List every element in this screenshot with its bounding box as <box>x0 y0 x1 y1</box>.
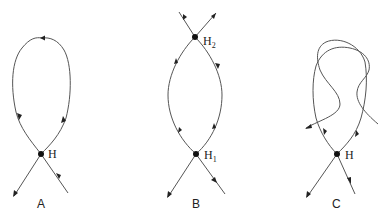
phase-portrait-diagram: H A H2 H1 B <box>0 0 390 217</box>
point-label-h1: H1 <box>204 148 217 164</box>
arrow-icon <box>323 128 327 135</box>
unstable-manifold-outer <box>14 154 41 196</box>
arrow-icon <box>305 124 312 129</box>
arrow-icon <box>211 177 217 183</box>
manifold-bottom-left <box>168 154 196 197</box>
arrow-icon <box>183 14 187 20</box>
saddle-point-h <box>334 151 340 157</box>
panel-a: H A <box>13 36 71 212</box>
saddle-point-h <box>38 151 44 157</box>
panel-c: H C <box>305 40 378 211</box>
panel-label-a: A <box>37 197 45 211</box>
heteroclinic-arc-right <box>195 37 222 154</box>
point-label-h2: H2 <box>203 34 216 50</box>
arrow-icon <box>347 177 351 184</box>
heteroclinic-arc-left <box>168 37 196 154</box>
panel-label-b: B <box>192 197 200 211</box>
arrow-icon <box>40 36 45 41</box>
homoclinic-loop <box>13 38 71 154</box>
panel-b: H2 H1 B <box>167 12 225 211</box>
saddle-point-h1 <box>193 151 199 157</box>
arrow-icon <box>178 127 182 133</box>
point-label-h: H <box>48 147 57 161</box>
manifold-bottom-left <box>307 154 337 197</box>
unstable-manifold-tangled <box>313 47 378 154</box>
panel-label-c: C <box>332 197 341 211</box>
point-label-h: H <box>345 148 354 162</box>
saddle-point-h2 <box>192 34 198 40</box>
manifold-top-left <box>179 12 195 37</box>
